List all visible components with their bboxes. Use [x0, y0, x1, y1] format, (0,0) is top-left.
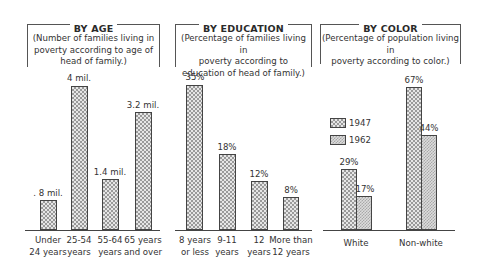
value-label: 29% — [324, 157, 374, 167]
value-label: 67% — [389, 75, 439, 85]
value-label: 17% — [340, 184, 390, 194]
value-label: 44% — [404, 123, 454, 133]
value-label: 4 mil. — [54, 73, 104, 83]
value-label: 8% — [266, 185, 316, 195]
legend-swatch-1947 — [330, 118, 346, 128]
legend-label-1947: 1947 — [349, 118, 371, 128]
baseline — [175, 230, 312, 231]
value-label: 18% — [202, 142, 252, 152]
category-label: Non-white — [393, 237, 449, 249]
value-label: 12% — [234, 169, 284, 179]
baseline — [25, 230, 160, 231]
category-label: More than 12 years — [263, 234, 319, 258]
bar-nonwhite-1962 — [421, 135, 437, 230]
value-label: 3.2 mil. — [118, 100, 168, 110]
bar-white-1962 — [356, 196, 372, 230]
panel-by-age-frame: BY AGE (Number of families living in pov… — [27, 24, 160, 67]
panel-by-color-frame: BY COLOR (Percentage of population livin… — [320, 24, 461, 64]
legend-label-1962: 1962 — [349, 135, 371, 145]
panel-by-education-frame: BY EDUCATION (Percentage of families liv… — [175, 24, 312, 67]
category-label: 65 years and over — [115, 234, 171, 258]
bar-9-11-years — [219, 154, 236, 230]
bar-nonwhite-1947 — [406, 87, 422, 230]
bar-8-years-or-less — [186, 85, 203, 230]
value-label: 1.4 mil. — [85, 167, 135, 177]
bar-65-over — [135, 112, 152, 230]
value-label: 35% — [170, 72, 220, 82]
bar-25-54 — [71, 86, 88, 230]
bar-more-than-12-years — [283, 197, 299, 230]
panel-subtitle-by-age: (Number of families living in poverty ac… — [28, 33, 159, 68]
category-label: White — [328, 237, 384, 249]
bar-55-64 — [102, 179, 119, 230]
value-label: . 8 mil. — [23, 188, 73, 198]
bar-under-24 — [40, 200, 57, 230]
panel-subtitle-by-color: (Percentage of population living in pove… — [321, 33, 460, 68]
legend-swatch-1962 — [330, 135, 346, 145]
bar-white-1947 — [341, 169, 357, 230]
baseline — [323, 230, 455, 231]
